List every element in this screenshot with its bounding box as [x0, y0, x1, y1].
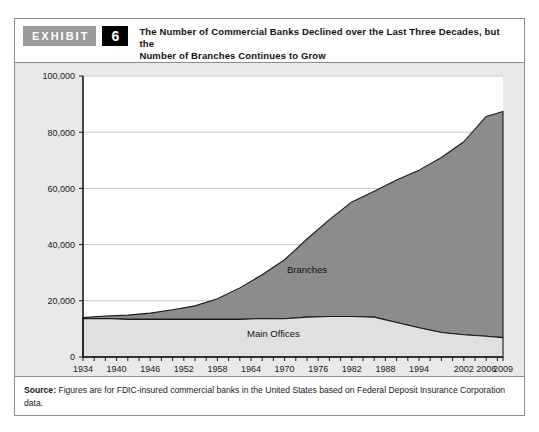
x-axis-label: 1940 — [107, 364, 127, 374]
x-axis-label: 1976 — [308, 364, 328, 374]
y-axis-label: 0 — [70, 352, 75, 362]
x-axis-label: 1964 — [241, 364, 261, 374]
y-axis-label: 20,000 — [47, 296, 75, 306]
exhibit-badge: EXHIBIT — [23, 26, 96, 46]
x-axis-label: 2002 — [454, 364, 474, 374]
x-axis-label: 1994 — [409, 364, 429, 374]
y-axis-label: 100,000 — [42, 71, 75, 81]
y-axis-label: 80,000 — [47, 128, 75, 138]
exhibit-title: The Number of Commercial Banks Declined … — [139, 26, 516, 62]
source-label: Source: — [24, 385, 56, 395]
x-axis-label: 2009 — [493, 364, 513, 374]
exhibit-frame: EXHIBIT 6 The Number of Commercial Banks… — [14, 18, 525, 416]
x-axis-label: 1952 — [174, 364, 194, 374]
series-label: Branches — [287, 264, 327, 275]
x-axis-label: 1934 — [73, 364, 93, 374]
exhibit-title-line-1: The Number of Commercial Banks Declined … — [139, 26, 516, 50]
exhibit-title-line-2: Number of Branches Continues to Grow — [139, 50, 516, 62]
x-axis-label: 1988 — [375, 364, 395, 374]
x-axis-label: 1970 — [275, 364, 295, 374]
chart-area: 020,00040,00060,00080,000100,000 1934194… — [15, 63, 524, 377]
source-text: Figures are for FDIC-insured commercial … — [24, 385, 505, 408]
y-axis-label: 40,000 — [47, 240, 75, 250]
stacked-area-chart: 020,00040,00060,00080,000100,000 1934194… — [15, 63, 524, 376]
exhibit-header: EXHIBIT 6 The Number of Commercial Banks… — [15, 19, 524, 63]
x-axis-label: 1946 — [140, 364, 160, 374]
series-label: Main Offices — [247, 328, 300, 339]
x-axis-label: 1982 — [342, 364, 362, 374]
x-axis-label: 1958 — [207, 364, 227, 374]
source-note: Source: Figures are for FDIC-insured com… — [15, 377, 524, 415]
y-axis-labels: 020,00040,00060,00080,000100,000 — [42, 71, 75, 362]
y-axis-label: 60,000 — [47, 184, 75, 194]
x-axis-labels: 1934194019461952195819641970197619821988… — [73, 364, 513, 374]
exhibit-number-badge: 6 — [102, 26, 128, 46]
